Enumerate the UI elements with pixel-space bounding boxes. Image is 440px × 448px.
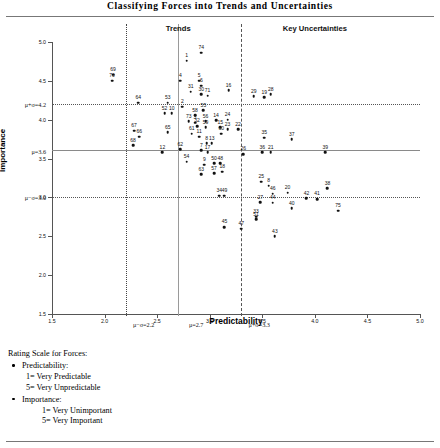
- data-point: [223, 195, 226, 198]
- data-point: [133, 129, 136, 132]
- data-point: [255, 218, 258, 221]
- data-point: [242, 153, 245, 156]
- data-point-label: 39: [323, 144, 329, 150]
- data-point-label: 19: [262, 89, 268, 95]
- figure-title: Classifying Forces into Trends and Uncer…: [0, 1, 440, 11]
- legend-item-line: 5= Very Unpredictable: [8, 383, 308, 394]
- data-point-label: 70: [109, 72, 115, 78]
- data-point: [221, 170, 224, 173]
- data-point-label: 58: [192, 107, 198, 113]
- data-point-label: 59: [203, 119, 209, 125]
- data-point-label: 65: [165, 124, 171, 130]
- data-point: [253, 95, 256, 98]
- data-point: [305, 197, 308, 200]
- legend-item-line: 1= Very Predictable: [8, 372, 308, 383]
- data-point-label: 36: [260, 144, 266, 150]
- data-point-label: 32: [194, 117, 200, 123]
- x-reference-line: [126, 24, 127, 316]
- data-point-label: 68: [130, 137, 136, 143]
- data-point: [269, 151, 272, 154]
- data-point-label: 42: [304, 190, 310, 196]
- data-point-label: 62: [177, 141, 183, 147]
- data-point-label: 45: [222, 218, 228, 224]
- y-tick-label: 1.5: [39, 311, 46, 317]
- data-point: [179, 148, 182, 151]
- footer-divider: [6, 441, 434, 442]
- data-point: [337, 209, 340, 212]
- data-point: [226, 128, 229, 131]
- data-point: [138, 136, 141, 139]
- data-point: [263, 136, 266, 139]
- data-point-label: 30: [199, 86, 205, 92]
- data-point: [132, 144, 135, 147]
- data-point: [272, 202, 275, 205]
- data-point-label: 27: [257, 194, 263, 200]
- data-point: [213, 172, 216, 175]
- data-point-label: 56: [203, 113, 209, 119]
- data-point-label: 22: [235, 121, 241, 127]
- data-point: [202, 109, 205, 112]
- data-point: [206, 94, 209, 97]
- data-point-label: 63: [199, 166, 205, 172]
- y-tick: [48, 275, 52, 276]
- data-point-label: 48: [217, 155, 223, 161]
- data-point-label: 18: [220, 163, 226, 169]
- y-reference-line: [52, 197, 420, 198]
- data-point-label: 69: [110, 66, 116, 72]
- legend-item-line: 1= Very Unimportant: [8, 406, 308, 417]
- plot-area: Importance 1.52.02.53.03.54.04.55.01.52.…: [0, 22, 440, 322]
- data-point-label: 14: [213, 112, 219, 118]
- y-reference-label: μ+σ=4.2: [25, 101, 46, 108]
- zone-label-trends: Trends: [166, 24, 191, 33]
- data-point-label: 40: [289, 200, 295, 206]
- legend-item-label: Importance:: [22, 395, 62, 404]
- scatter-plot: 1.52.02.53.03.54.04.55.01.52.02.53.03.54…: [52, 42, 420, 314]
- x-reference-line: [178, 24, 179, 316]
- data-point: [191, 132, 194, 135]
- data-point: [111, 80, 114, 83]
- data-point-label: 7: [200, 142, 203, 148]
- data-point: [290, 138, 293, 141]
- data-point-label: 51: [253, 211, 259, 217]
- header-divider: [6, 16, 434, 17]
- data-point: [220, 132, 223, 135]
- y-tick-label: 2.0: [39, 272, 46, 278]
- data-point-label: 20: [285, 184, 291, 190]
- y-tick: [48, 159, 52, 160]
- data-point: [324, 151, 327, 154]
- data-point: [260, 181, 263, 184]
- bullet-icon: [12, 364, 15, 367]
- data-point-label: 6: [200, 77, 203, 83]
- data-point: [240, 227, 243, 230]
- data-point: [187, 120, 190, 123]
- data-point-label: 61: [189, 125, 195, 131]
- data-point: [263, 96, 266, 99]
- data-point: [185, 160, 188, 163]
- data-point: [171, 112, 174, 115]
- data-point: [200, 52, 203, 55]
- legend-item: Predictability:: [8, 361, 308, 372]
- y-reference-line: [52, 150, 420, 151]
- data-point-label: 15: [217, 119, 223, 125]
- zone-label-key-uncertainties: Key Uncertainties: [283, 24, 347, 33]
- data-point-label: 35: [262, 129, 268, 135]
- data-point-label: 67: [131, 122, 137, 128]
- data-point-label: 23: [225, 121, 231, 127]
- data-point: [218, 195, 221, 198]
- data-point: [227, 89, 230, 92]
- data-point: [198, 136, 201, 139]
- data-point-label: 24: [225, 111, 231, 117]
- data-point-label: 60: [218, 125, 224, 131]
- legend-item-line: 5= Very Important: [8, 416, 308, 427]
- y-reference-label: μ=3.6: [31, 147, 46, 154]
- data-point-label: 43: [272, 228, 278, 234]
- data-point-label: 21: [268, 144, 274, 150]
- data-point-label: 52: [162, 105, 168, 111]
- data-point: [166, 131, 169, 134]
- x-axis-title: Predictability: [52, 316, 420, 326]
- rating-scale-legend: Rating Scale for Forces: Predictability:…: [8, 349, 308, 427]
- y-axis-title: Importance: [0, 129, 7, 172]
- data-point: [204, 126, 207, 129]
- data-point: [237, 128, 240, 131]
- data-point-label: 71: [205, 87, 211, 93]
